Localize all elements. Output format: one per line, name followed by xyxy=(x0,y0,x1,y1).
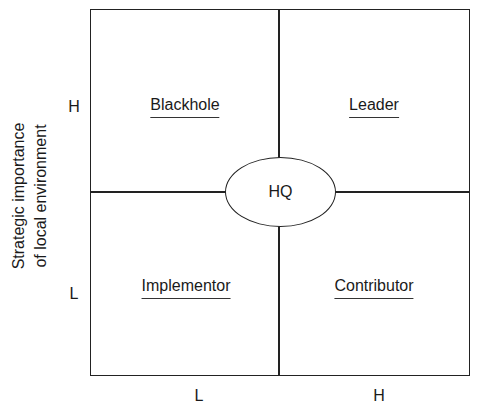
x-tick-low: L xyxy=(195,387,204,405)
hq-ellipse: HQ xyxy=(225,157,336,227)
y-axis-label: Strategic importance of local environmen… xyxy=(8,123,52,270)
y-axis-label-line2: of local environment xyxy=(30,123,52,270)
quadrant-leader: Leader xyxy=(349,96,399,118)
y-tick-high: H xyxy=(68,98,80,116)
x-tick-high: H xyxy=(373,387,385,405)
quadrant-implementor: Implementor xyxy=(142,277,231,299)
quadrant-contributor: Contributor xyxy=(334,277,413,299)
hq-label: HQ xyxy=(269,183,293,201)
y-tick-low: L xyxy=(70,285,79,303)
y-axis-label-line1: Strategic importance xyxy=(8,123,30,270)
quadrant-blackhole: Blackhole xyxy=(150,96,219,118)
